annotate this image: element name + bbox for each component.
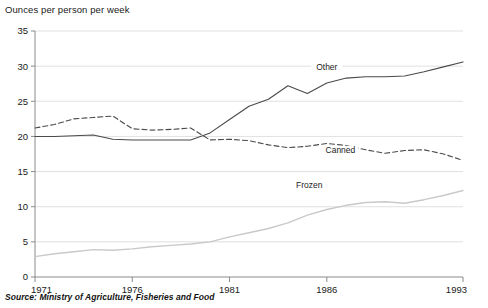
y-axis-tick-label: 30 bbox=[17, 61, 28, 72]
series-line-frozen bbox=[35, 191, 463, 257]
line-chart-plot: 0510152025303519711976198119861993OtherC… bbox=[0, 0, 488, 308]
x-axis-tick-label: 1986 bbox=[316, 284, 337, 295]
y-axis-tick-label: 0 bbox=[23, 271, 28, 282]
y-axis-tick-label: 20 bbox=[17, 131, 28, 142]
y-axis-tick-label: 5 bbox=[23, 236, 28, 247]
series-line-canned bbox=[35, 116, 463, 160]
x-axis-tick-label: 1981 bbox=[219, 284, 240, 295]
x-axis-tick-label: 1993 bbox=[446, 284, 467, 295]
y-axis-tick-label: 15 bbox=[17, 166, 28, 177]
chart-source-note: Source: Ministry of Agriculture, Fisheri… bbox=[5, 292, 215, 302]
series-label-canned: Canned bbox=[326, 145, 356, 155]
chart-container: Ounces per person per week 0510152025303… bbox=[0, 0, 488, 308]
series-label-frozen: Frozen bbox=[296, 180, 323, 190]
y-axis-tick-label: 35 bbox=[17, 25, 28, 36]
y-axis-tick-label: 10 bbox=[17, 201, 28, 212]
series-label-other: Other bbox=[316, 62, 337, 72]
y-axis-tick-label: 25 bbox=[17, 96, 28, 107]
